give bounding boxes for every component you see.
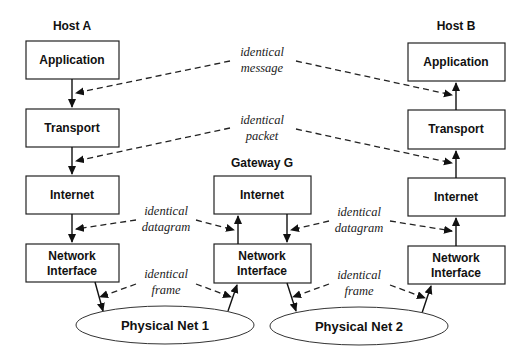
arrow-down-icon bbox=[287, 283, 296, 311]
annotation-datagram-left-line2: datagram bbox=[142, 220, 191, 234]
physical-net-1-label: Physical Net 1 bbox=[121, 318, 209, 333]
annotation-datagram-right-line2: datagram bbox=[335, 221, 384, 235]
gateway-g: Gateway G Internet Network Interface bbox=[214, 156, 311, 311]
annotation-packet-line1: identical bbox=[240, 113, 284, 127]
arrow-up-icon bbox=[228, 285, 237, 311]
host-a-title: Host A bbox=[53, 19, 92, 33]
host-a-ni-label-1: Network bbox=[48, 249, 96, 263]
annotation-frame-right: identical frame bbox=[293, 268, 425, 298]
annotation-frame-right-line2: frame bbox=[344, 284, 374, 298]
host-b-ni-label-2: Interface bbox=[431, 266, 481, 280]
protocol-layering-diagram: Host A Application Transport Internet Ne… bbox=[0, 0, 531, 361]
dashed-arrow-icon bbox=[291, 221, 329, 230]
host-a-application-label: Application bbox=[39, 53, 104, 67]
annotation-frame-right-line1: identical bbox=[337, 268, 381, 282]
host-b-transport-label: Transport bbox=[428, 122, 483, 136]
annotation-frame-left: identical frame bbox=[100, 267, 231, 297]
host-a-internet-label: Internet bbox=[50, 188, 94, 202]
annotation-frame-left-line2: frame bbox=[151, 283, 181, 297]
dashed-arrow-icon bbox=[196, 284, 231, 297]
host-a-ni-label-2: Interface bbox=[47, 264, 97, 278]
host-b-ni-label-1: Network bbox=[432, 251, 480, 265]
gateway-internet-label: Internet bbox=[240, 188, 284, 202]
dashed-arrow-icon bbox=[390, 285, 425, 298]
dashed-arrow-icon bbox=[100, 284, 136, 297]
physical-net-2-label: Physical Net 2 bbox=[315, 319, 403, 334]
gateway-ni-label-1: Network bbox=[238, 249, 286, 263]
host-a: Host A Application Transport Internet Ne… bbox=[26, 19, 119, 311]
gateway-title: Gateway G bbox=[231, 156, 293, 170]
host-b-title: Host B bbox=[437, 19, 476, 33]
dashed-arrow-icon bbox=[76, 220, 136, 229]
arrow-down-icon bbox=[95, 282, 103, 311]
host-b: Host B Application Transport Internet Ne… bbox=[408, 19, 505, 313]
annotation-datagram-left-line1: identical bbox=[144, 204, 188, 218]
host-b-application-label: Application bbox=[423, 55, 488, 69]
host-a-transport-label: Transport bbox=[44, 121, 99, 135]
annotation-message-line1: identical bbox=[240, 45, 284, 59]
annotation-frame-left-line1: identical bbox=[144, 267, 188, 281]
dashed-arrow-icon bbox=[293, 284, 329, 297]
host-b-internet-label: Internet bbox=[434, 190, 478, 204]
annotation-packet-line2: packet bbox=[245, 129, 279, 143]
dashed-arrow-icon bbox=[196, 220, 234, 230]
annotation-datagram-right-line1: identical bbox=[337, 205, 381, 219]
annotation-message: identical message bbox=[76, 45, 452, 95]
gateway-ni-label-2: Interface bbox=[237, 264, 287, 278]
annotation-message-line2: message bbox=[241, 61, 284, 75]
arrow-up-icon bbox=[422, 286, 431, 313]
dashed-arrow-icon bbox=[390, 221, 452, 231]
